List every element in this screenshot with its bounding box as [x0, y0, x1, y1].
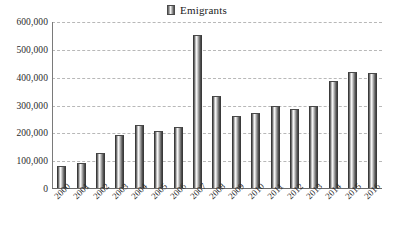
bar-slot — [110, 21, 129, 188]
x-axis-slot: 2015 — [343, 190, 362, 226]
x-axis-slot: 2003 — [110, 190, 129, 226]
x-axis-slot: 2012 — [285, 190, 304, 226]
y-axis-tick-label: 200,000 — [16, 128, 48, 138]
x-axis-slot: 2016 — [363, 190, 382, 226]
bar-slot — [227, 21, 246, 188]
emigrants-bar-chart: Emigrants 0100,000200,000300,000400,0005… — [0, 0, 394, 228]
bar-slot — [91, 21, 110, 188]
bar-slot — [149, 21, 168, 188]
bar[interactable] — [193, 35, 202, 188]
series-swatch-icon — [167, 5, 175, 15]
y-axis-tick-label: 0 — [43, 184, 48, 194]
bar[interactable] — [232, 116, 241, 188]
bar-slot — [246, 21, 265, 188]
y-axis-tick-label: 500,000 — [16, 45, 48, 55]
bar[interactable] — [212, 96, 221, 188]
bar[interactable] — [271, 106, 280, 188]
bar[interactable] — [174, 127, 183, 188]
bar[interactable] — [135, 125, 144, 188]
bar-slot — [304, 21, 323, 188]
bar[interactable] — [368, 73, 377, 189]
bar-slot — [188, 21, 207, 188]
bar-slot — [285, 21, 304, 188]
bar-slot — [207, 21, 226, 188]
x-axis-slot: 2007 — [188, 190, 207, 226]
bar-slot — [71, 21, 90, 188]
x-axis-slot: 2000 — [52, 190, 71, 226]
bar[interactable] — [309, 106, 318, 188]
bar[interactable] — [251, 113, 260, 188]
bar[interactable] — [329, 81, 338, 188]
y-axis-tick-label: 300,000 — [16, 101, 48, 111]
x-axis-slot: 2004 — [130, 190, 149, 226]
y-axis-tick-label: 600,000 — [16, 17, 48, 27]
x-axis-slot: 2011 — [265, 190, 284, 226]
plot-area — [52, 22, 382, 189]
bar[interactable] — [154, 131, 163, 188]
x-axis-labels: 2000200120022003200420052006200720082009… — [52, 190, 382, 226]
x-axis-slot: 2009 — [227, 190, 246, 226]
y-axis-tick-label: 400,000 — [16, 73, 48, 83]
bar-slot — [343, 21, 362, 188]
x-axis-slot: 2005 — [149, 190, 168, 226]
y-axis-tick-label: 100,000 — [16, 156, 48, 166]
x-axis-slot: 2013 — [304, 190, 323, 226]
bar-slot — [168, 21, 187, 188]
x-axis-slot: 2001 — [71, 190, 90, 226]
chart-legend: Emigrants — [0, 3, 394, 17]
x-axis-slot: 2006 — [168, 190, 187, 226]
bar-series — [52, 21, 382, 188]
x-axis-slot: 2008 — [207, 190, 226, 226]
y-axis-labels: 0100,000200,000300,000400,000500,000600,… — [0, 22, 48, 189]
bar-slot — [324, 21, 343, 188]
bar-slot — [265, 21, 284, 188]
x-axis-slot: 2014 — [324, 190, 343, 226]
bar-slot — [363, 21, 382, 188]
bar-slot — [52, 21, 71, 188]
bar-slot — [130, 21, 149, 188]
bar[interactable] — [290, 109, 299, 188]
bar[interactable] — [348, 72, 357, 188]
x-axis-slot: 2002 — [91, 190, 110, 226]
legend-label: Emigrants — [180, 4, 227, 16]
x-axis-slot: 2010 — [246, 190, 265, 226]
